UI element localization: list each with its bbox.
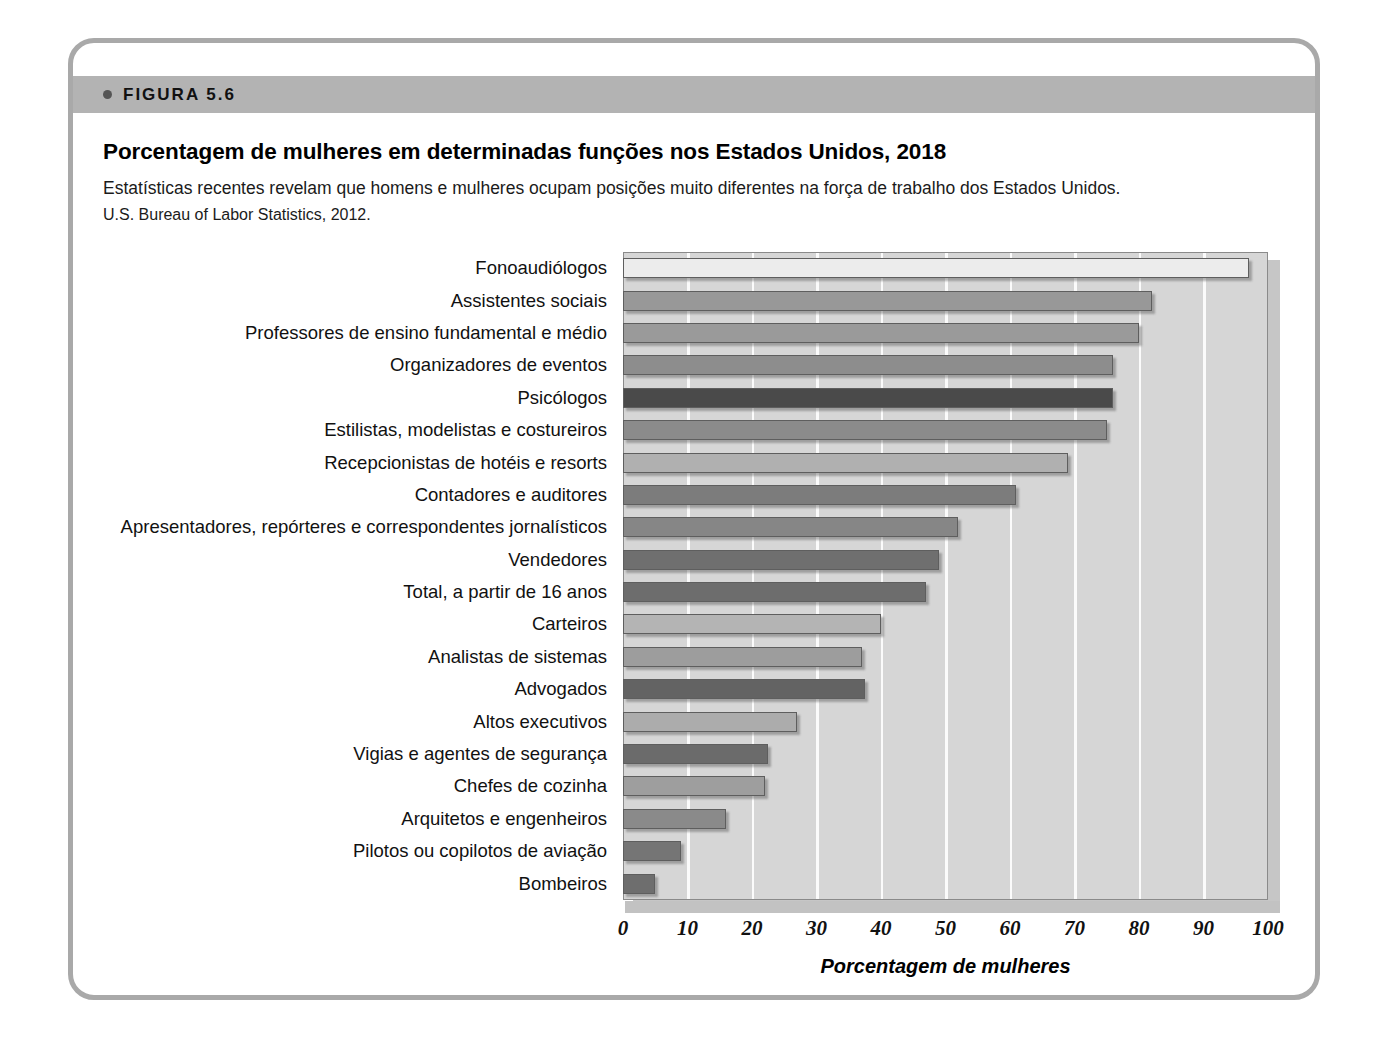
- y-axis-label: Fonoaudiólogos: [73, 252, 616, 284]
- bar: [623, 291, 1152, 311]
- y-axis-label: Chefes de cozinha: [73, 770, 616, 802]
- bar-row: [623, 770, 1268, 802]
- y-axis-label: Total, a partir de 16 anos: [73, 576, 616, 608]
- x-axis-tick-label: 60: [1000, 916, 1021, 941]
- bar-row: [623, 705, 1268, 737]
- bar: [623, 485, 1016, 505]
- bar: [623, 614, 881, 634]
- x-axis-title: Porcentagem de mulheres: [623, 955, 1268, 978]
- bar-row: [623, 544, 1268, 576]
- bar: [623, 258, 1249, 278]
- bar-row: [623, 382, 1268, 414]
- bar-row: [623, 673, 1268, 705]
- y-axis-label: Assistentes sociais: [73, 284, 616, 316]
- x-axis-tick-label: 10: [677, 916, 698, 941]
- page-title: Porcentagem de mulheres em determinadas …: [103, 139, 1283, 165]
- x-axis-ticks: 0102030405060708090100: [623, 916, 1268, 950]
- bar: [623, 355, 1113, 375]
- y-axis-label: Analistas de sistemas: [73, 641, 616, 673]
- y-axis-label: Contadores e auditores: [73, 479, 616, 511]
- bar: [623, 453, 1068, 473]
- figure-frame: FIGURA 5.6 Porcentagem de mulheres em de…: [68, 38, 1320, 1000]
- bar-row: [623, 867, 1268, 899]
- figure-subtitle: Estatísticas recentes revelam que homens…: [103, 176, 1293, 201]
- bar-row: [623, 511, 1268, 543]
- bar-rows: [623, 252, 1268, 900]
- bar-row: [623, 835, 1268, 867]
- bar-row: [623, 641, 1268, 673]
- y-axis-label: Professores de ensino fundamental e médi…: [73, 317, 616, 349]
- figure-band: FIGURA 5.6: [73, 76, 1315, 113]
- bar: [623, 388, 1113, 408]
- figure-source: U.S. Bureau of Labor Statistics, 2012.: [103, 202, 1293, 227]
- x-axis-tick-label: 90: [1193, 916, 1214, 941]
- y-axis-label: Apresentadores, repórteres e corresponde…: [73, 511, 616, 543]
- bar-row: [623, 803, 1268, 835]
- x-axis-tick-label: 80: [1129, 916, 1150, 941]
- bar: [623, 420, 1107, 440]
- x-axis-tick-label: 20: [742, 916, 763, 941]
- x-axis-tick-label: 40: [871, 916, 892, 941]
- y-axis-label: Advogados: [73, 673, 616, 705]
- bar-row: [623, 414, 1268, 446]
- bar: [623, 744, 768, 764]
- y-axis-label: Pilotos ou copilotos de aviação: [73, 835, 616, 867]
- y-axis-label: Estilistas, modelistas e costureiros: [73, 414, 616, 446]
- bar-row: [623, 738, 1268, 770]
- bar: [623, 841, 681, 861]
- bar: [623, 517, 958, 537]
- bar: [623, 712, 797, 732]
- bar: [623, 582, 926, 602]
- x-axis-tick-label: 0: [618, 916, 629, 941]
- x-axis-tick-label: 70: [1064, 916, 1085, 941]
- bar-row: [623, 317, 1268, 349]
- bar-row: [623, 252, 1268, 284]
- y-axis-label: Carteiros: [73, 608, 616, 640]
- bar: [623, 874, 655, 894]
- bar-row: [623, 284, 1268, 316]
- bar: [623, 809, 726, 829]
- bar: [623, 776, 765, 796]
- x-axis-tick-label: 50: [935, 916, 956, 941]
- y-axis-label: Organizadores de eventos: [73, 349, 616, 381]
- y-axis-label: Psicólogos: [73, 382, 616, 414]
- bullet-icon: [103, 90, 112, 99]
- bar: [623, 550, 939, 570]
- y-axis-label: Arquitetos e engenheiros: [73, 803, 616, 835]
- x-axis-tick-label: 30: [806, 916, 827, 941]
- y-axis-labels: FonoaudiólogosAssistentes sociaisProfess…: [73, 252, 616, 900]
- bar-row: [623, 479, 1268, 511]
- x-axis-plate: [625, 901, 1280, 913]
- y-axis-label: Recepcionistas de hotéis e resorts: [73, 446, 616, 478]
- bar-row: [623, 608, 1268, 640]
- figure-number-label: FIGURA 5.6: [123, 85, 236, 105]
- bar-row: [623, 349, 1268, 381]
- y-axis-label: Bombeiros: [73, 867, 616, 899]
- x-axis-tick-label: 100: [1252, 916, 1284, 941]
- y-axis-label: Altos executivos: [73, 705, 616, 737]
- bar: [623, 647, 862, 667]
- y-axis-label: Vigias e agentes de segurança: [73, 738, 616, 770]
- bar: [623, 323, 1139, 343]
- bar-chart: FonoaudiólogosAssistentes sociaisProfess…: [73, 243, 1315, 1003]
- bar-row: [623, 576, 1268, 608]
- bar-row: [623, 446, 1268, 478]
- bar: [623, 679, 865, 699]
- y-axis-label: Vendedores: [73, 544, 616, 576]
